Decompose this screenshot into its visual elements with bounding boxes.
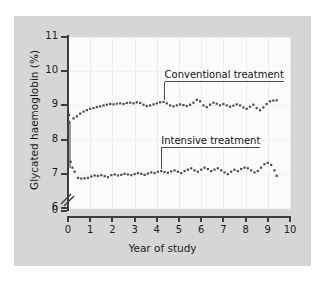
data-point: [153, 172, 155, 174]
data-point: [92, 107, 94, 109]
data-point: [160, 170, 162, 172]
data-point: [180, 172, 182, 174]
data-point: [272, 100, 274, 102]
data-point: [68, 121, 70, 123]
data-point: [82, 110, 84, 112]
x-axis-tick: [200, 216, 202, 222]
data-point: [132, 102, 134, 104]
data-point: [186, 105, 188, 107]
data-series-intensive: [68, 121, 278, 180]
x-axis-tick-label: 1: [80, 224, 100, 235]
data-point: [179, 103, 181, 105]
data-point: [137, 172, 139, 174]
data-point: [189, 104, 191, 106]
y-axis-tick: [61, 207, 67, 209]
data-point: [190, 167, 192, 169]
data-point: [116, 103, 118, 105]
data-point: [166, 102, 168, 104]
data-point: [172, 105, 174, 107]
y-axis-tick: [61, 36, 67, 38]
data-point: [237, 170, 239, 172]
x-axis-tick: [222, 216, 224, 222]
data-point: [273, 169, 275, 171]
data-point: [102, 104, 104, 106]
data-point: [90, 175, 92, 177]
x-axis-tick: [111, 216, 113, 222]
data-point: [114, 173, 116, 175]
data-point: [72, 117, 74, 119]
data-point: [249, 106, 251, 108]
data-point: [159, 101, 161, 103]
x-axis-tick: [178, 216, 180, 222]
data-point: [206, 106, 208, 108]
data-point: [227, 173, 229, 175]
data-point: [163, 171, 165, 173]
x-axis-tick-label: 7: [213, 224, 233, 235]
data-point: [276, 175, 278, 177]
data-point: [130, 174, 132, 176]
data-point: [247, 167, 249, 169]
y-axis-tick: [61, 139, 67, 141]
data-point: [220, 169, 222, 171]
y-axis-tick: [61, 210, 67, 212]
data-point: [74, 171, 76, 173]
x-axis-tick-label: 9: [258, 224, 278, 235]
data-point: [216, 103, 218, 105]
data-point: [134, 173, 136, 175]
data-point: [110, 174, 112, 176]
data-point: [257, 170, 259, 172]
data-point: [126, 102, 128, 104]
data-point: [230, 171, 232, 173]
data-point: [142, 104, 144, 106]
data-point: [209, 104, 211, 106]
data-point: [140, 173, 142, 175]
y-axis-tick-label: 8: [36, 134, 58, 144]
data-point: [200, 169, 202, 171]
data-point: [169, 104, 171, 106]
x-axis-tick-label: 6: [191, 224, 211, 235]
data-point: [183, 170, 185, 172]
data-point: [236, 103, 238, 105]
data-point: [124, 173, 126, 175]
data-point: [219, 104, 221, 106]
data-point: [266, 103, 268, 105]
data-point: [262, 106, 264, 108]
x-axis-tick-label: 8: [236, 224, 256, 235]
x-axis-tick: [267, 216, 269, 222]
y-axis-tick-label: 7: [36, 168, 58, 178]
data-point: [202, 104, 204, 106]
data-point: [119, 102, 121, 104]
data-point: [213, 169, 215, 171]
x-axis-tick-label: 10: [280, 224, 300, 235]
y-axis-tick-label: 9: [36, 99, 58, 109]
data-point: [197, 171, 199, 173]
data-point: [176, 104, 178, 106]
data-point: [156, 102, 158, 104]
data-point: [76, 115, 78, 117]
data-point: [192, 102, 194, 104]
data-point: [136, 101, 138, 103]
y-axis-tick: [61, 70, 67, 72]
data-point: [149, 104, 151, 106]
data-point: [109, 103, 111, 105]
data-point: [267, 162, 269, 164]
data-point: [260, 167, 262, 169]
data-point: [223, 171, 225, 173]
data-point: [150, 171, 152, 173]
data-point: [167, 172, 169, 174]
data-point: [182, 104, 184, 106]
data-point: [253, 171, 255, 173]
data-point: [203, 167, 205, 169]
x-axis-tick: [67, 216, 69, 222]
chart-figure: Glycated haemoglobin (%) Year of study C…: [14, 16, 311, 266]
x-axis-tick: [245, 216, 247, 222]
data-point: [86, 109, 88, 111]
x-axis-tick-label: 5: [169, 224, 189, 235]
data-series-conventional: [68, 99, 278, 120]
data-point: [96, 106, 98, 108]
x-axis-tick-label: 0: [58, 224, 78, 235]
x-axis-tick-label: 3: [125, 224, 145, 235]
data-point: [263, 163, 265, 165]
data-point: [217, 167, 219, 169]
y-axis-tick-label: 10: [36, 65, 58, 75]
